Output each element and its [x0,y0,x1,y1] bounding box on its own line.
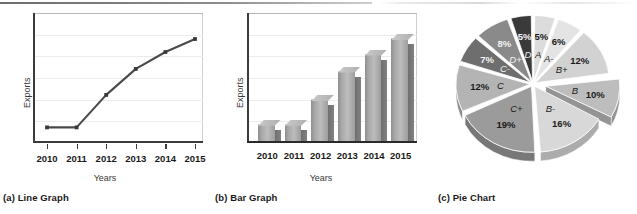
pie-plot-area: 5%A6%A-12%B+10%B16%B-19%C+12%C7%C-8%D+5%… [430,0,637,180]
panel-caption-b: (b) Bar Graph [215,192,278,203]
panel-pie-chart: 5%A6%A-12%B+10%B16%B-19%C+12%C7%C-8%D+5%… [430,0,637,214]
bar-x-tick-label: 2015 [390,150,411,161]
bar-y-axis-title: Exports [235,77,245,108]
pie-slice-label: C+ [510,103,523,114]
line-y-axis [33,13,35,143]
pie-series: 5%A6%A-12%B+10%B16%B-19%C+12%C7%C-8%D+5%… [430,0,637,180]
pie-slice-percent: 12% [570,55,590,66]
pie-slice-percent: 7% [480,54,494,65]
bar-side-face [355,77,361,144]
panel-line-graph: Exports 201020112012201320142015 Years (… [0,0,213,214]
pie-slice-percent: 12% [470,81,490,92]
panel-bar-graph: Exports 201020112012201320142015 Years (… [213,0,430,214]
pie-slice-percent: 10% [586,89,606,100]
line-x-tick-label: 2014 [155,153,176,164]
pie-slice-label: B- [546,103,556,114]
line-x-tick [195,144,196,149]
pie-slice-percent: 5% [534,31,548,42]
pie-slice-label: A [534,49,541,60]
line-x-axis-title: Years [94,173,117,183]
bar-x-axis [247,141,417,143]
line-x-tick [47,144,48,149]
pie-slice-label: D+ [509,54,522,65]
line-x-tick [136,144,137,149]
pie-slice-label: A- [543,53,554,64]
pie-slice-label: D [524,49,531,60]
line-x-tick-label: 2010 [36,153,57,164]
pie-slice-label: C- [500,63,510,74]
line-x-tick-label: 2015 [184,153,205,164]
bar-gridline [247,35,417,36]
bar-plot-area [247,13,417,143]
bar-column [391,39,408,143]
bar-front-face [338,71,355,144]
bar-front-face [311,99,328,143]
bar-x-tick-label: 2012 [310,150,331,161]
pie-slice-percent: 6% [552,36,566,47]
pie-slice-percent: 5% [518,31,532,42]
bar-front-face [365,54,382,143]
panel-caption-c: (c) Pie Chart [438,192,495,203]
line-y-axis-title: Exports [22,77,32,108]
bar-column [311,100,328,143]
bar-x-tick-label: 2013 [337,150,358,161]
line-x-axis [33,141,203,143]
pie-slice-percent: 8% [498,38,512,49]
bar-side-face [408,44,414,143]
line-x-tick-label: 2012 [96,153,117,164]
bar-column [338,72,355,144]
line-x-tick-label: 2013 [125,153,146,164]
line-series [33,13,203,143]
line-x-tick [165,144,166,149]
bar-column [365,55,382,143]
panel-caption-a: (a) Line Graph [3,192,69,203]
bar-x-axis-title: Years [310,173,333,183]
pie-slice-label: B+ [556,64,568,75]
pie-slice-label: B [572,85,579,96]
bar-top-face [365,50,388,56]
pie-slice-percent: 19% [496,119,516,130]
bar-side-face [381,60,387,143]
bar-y-axis [247,13,249,143]
bar-x-tick-label: 2014 [363,150,384,161]
line-plot-area [33,13,203,143]
bar-top-face [338,67,361,73]
bar-x-tick-label: 2011 [284,150,305,161]
pie-slice-percent: 16% [552,118,572,129]
line-x-tick [106,144,107,149]
line-x-tick-label: 2011 [66,153,87,164]
line-x-tick [77,144,78,149]
bar-front-face [391,38,408,143]
bar-side-face [328,105,334,143]
bar-x-tick-label: 2010 [257,150,278,161]
pie-slice-label: C [497,80,504,91]
